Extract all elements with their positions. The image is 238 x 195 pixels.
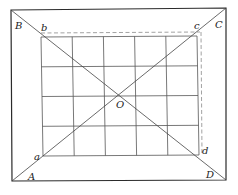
label-D: D	[205, 169, 214, 180]
grid-hline-1	[42, 66, 198, 67]
label-O: O	[116, 99, 124, 110]
label-C: C	[215, 19, 223, 30]
dashed-right-cd	[201, 32, 202, 155]
label-b: b	[41, 22, 47, 33]
label-d: d	[202, 145, 208, 156]
dashed-boundary	[41, 32, 202, 155]
label-a: a	[34, 151, 40, 162]
label-c: c	[194, 20, 200, 31]
grid-hline-3	[43, 125, 199, 126]
geometry-diagram: B C A D b c a d O	[0, 0, 238, 195]
label-B: B	[14, 20, 22, 31]
label-A: A	[27, 171, 35, 182]
dashed-top-bc	[41, 32, 200, 33]
grid-bottom-edge	[43, 155, 199, 156]
grid-top-line	[41, 36, 197, 37]
